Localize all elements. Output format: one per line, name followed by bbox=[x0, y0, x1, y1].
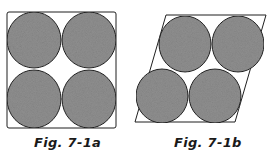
figure-7-1a bbox=[7, 12, 116, 128]
circle-top-right bbox=[62, 12, 116, 68]
circle-top-left bbox=[7, 12, 61, 68]
circle-bottom-right bbox=[189, 69, 241, 123]
circle-top-left bbox=[159, 16, 211, 72]
circle-bottom-left bbox=[7, 70, 61, 128]
circle-top-right bbox=[212, 16, 264, 72]
caption-fig-7-1b: Fig. 7-1b bbox=[174, 135, 242, 150]
circle-bottom-right bbox=[62, 70, 116, 128]
figure-7-1b bbox=[135, 15, 266, 123]
caption-fig-7-1a: Fig. 7-1a bbox=[34, 135, 101, 150]
diagram-canvas bbox=[0, 0, 270, 154]
circle-bottom-left bbox=[136, 69, 188, 123]
